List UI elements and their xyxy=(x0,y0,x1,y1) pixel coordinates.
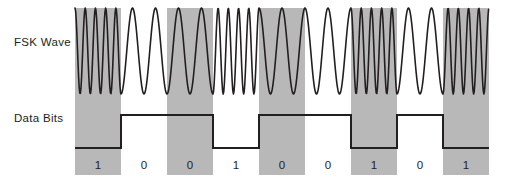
bit-label: 0 xyxy=(187,159,193,171)
bit-label: 0 xyxy=(417,159,423,171)
bit-label: 1 xyxy=(463,159,469,171)
bit-label: 0 xyxy=(325,159,331,171)
waveform-plot: 100100101 xyxy=(0,0,531,184)
bit-label: 0 xyxy=(141,159,147,171)
bit-label-row: 100100101 xyxy=(95,159,469,171)
fsk-modulation-diagram: FSK Wave Data Bits 100100101 xyxy=(0,0,531,184)
bit-label: 1 xyxy=(95,159,101,171)
bit-label: 1 xyxy=(371,159,377,171)
bit-label: 0 xyxy=(279,159,285,171)
bit-band xyxy=(259,8,305,175)
bit-label: 1 xyxy=(233,159,239,171)
